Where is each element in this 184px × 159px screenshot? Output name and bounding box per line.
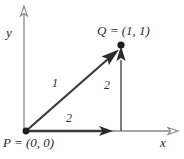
point-marker-q bbox=[117, 41, 124, 48]
edge-label-horizontal: 2 bbox=[66, 112, 72, 124]
vector-diagram: y x Q = (1, 1) P = (0, 0) 1 2 2 bbox=[0, 0, 184, 159]
point-label-q: Q = (1, 1) bbox=[97, 24, 150, 37]
edge-label-vertical: 2 bbox=[104, 79, 110, 91]
point-label-p: P = (0, 0) bbox=[3, 136, 54, 149]
x-axis-label: x bbox=[160, 136, 166, 149]
point-marker-p bbox=[23, 128, 30, 135]
edge-label-diagonal: 1 bbox=[52, 77, 58, 89]
y-axis-label: y bbox=[6, 26, 12, 39]
